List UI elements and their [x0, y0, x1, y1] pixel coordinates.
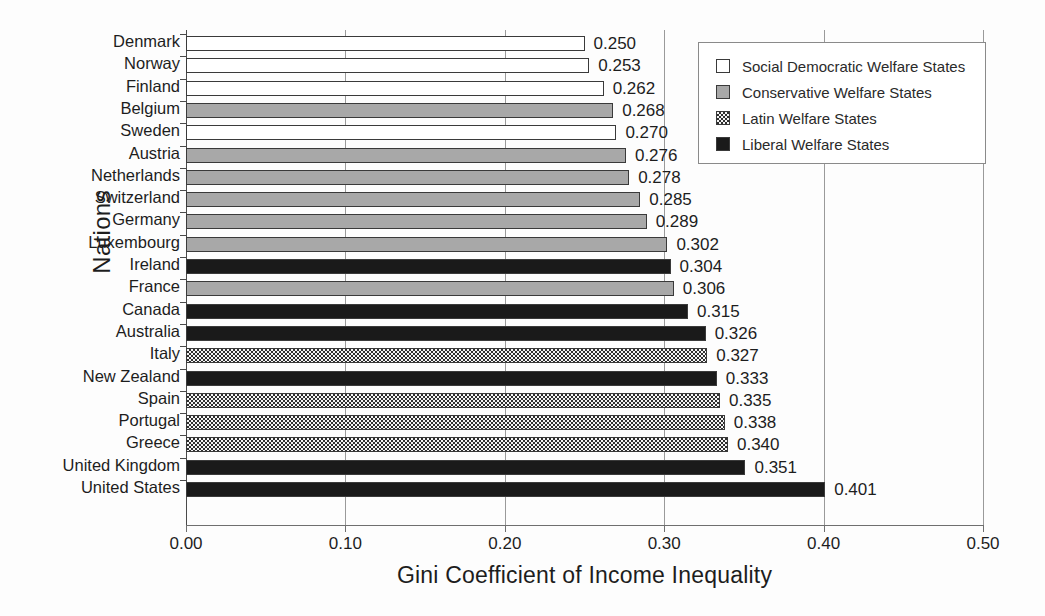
x-axis-tick-mark [983, 525, 984, 532]
bar-value-label: 0.401 [834, 480, 877, 499]
x-axis-line [186, 525, 983, 526]
bar-value-label: 0.268 [622, 101, 665, 120]
legend-label: Liberal Welfare States [742, 136, 889, 153]
y-axis-tick-mark [180, 346, 186, 347]
bar[interactable] [186, 125, 616, 140]
bar-value-label: 0.250 [594, 34, 637, 53]
x-axis-title: Gini Coefficient of Income Inequality [186, 562, 983, 589]
bar-value-label: 0.351 [754, 458, 797, 477]
x-axis-tick-label: 0.30 [619, 534, 709, 554]
y-axis-tick-mark [180, 302, 186, 303]
legend: Social Democratic Welfare StatesConserva… [698, 42, 986, 164]
bar-row: Netherlands0.278 [186, 168, 983, 190]
bar[interactable] [186, 437, 728, 452]
legend-item-sd[interactable]: Social Democratic Welfare States [716, 55, 965, 77]
bar-row: Ireland0.304 [186, 257, 983, 279]
category-label: Australia [0, 323, 180, 340]
y-axis-tick-mark [180, 391, 186, 392]
x-axis-tick-label: 0.50 [938, 534, 1028, 554]
x-axis-tick-mark [824, 525, 825, 532]
bar-value-label: 0.327 [716, 346, 759, 365]
x-axis-tick-mark [664, 525, 665, 532]
x-axis-tick-label: 0.20 [460, 534, 550, 554]
x-axis-tick-label: 0.40 [779, 534, 869, 554]
bar[interactable] [186, 103, 613, 118]
category-label: Austria [0, 145, 180, 162]
category-label: United States [0, 479, 180, 496]
bar[interactable] [186, 393, 720, 408]
bar-value-label: 0.338 [734, 413, 777, 432]
bar-row: Canada0.315 [186, 302, 983, 324]
bar[interactable] [186, 348, 707, 363]
y-axis-tick-mark [180, 146, 186, 147]
bar[interactable] [186, 214, 647, 229]
bar-value-label: 0.270 [625, 123, 668, 142]
bar-value-label: 0.304 [680, 257, 723, 276]
legend-label: Latin Welfare States [742, 110, 877, 127]
x-axis-tick-mark [345, 525, 346, 532]
category-label: Luxembourg [0, 234, 180, 251]
y-axis-tick-mark [180, 324, 186, 325]
bar-value-label: 0.333 [726, 369, 769, 388]
y-axis-tick-mark [180, 79, 186, 80]
bar-value-label: 0.289 [656, 212, 699, 231]
category-label: New Zealand [0, 368, 180, 385]
bar[interactable] [186, 58, 589, 73]
legend-item-cons[interactable]: Conservative Welfare States [716, 81, 932, 103]
category-label: Sweden [0, 122, 180, 139]
bar-row: Germany0.289 [186, 212, 983, 234]
bar-row: France0.306 [186, 279, 983, 301]
category-label: Canada [0, 301, 180, 318]
y-axis-tick-mark [180, 257, 186, 258]
legend-item-latin[interactable]: Latin Welfare States [716, 107, 877, 129]
y-axis-tick-mark [180, 101, 186, 102]
category-label: Ireland [0, 256, 180, 273]
category-label: Denmark [0, 33, 180, 50]
y-axis-tick-mark [180, 235, 186, 236]
black-square-icon [716, 137, 730, 151]
bar-row: United States0.401 [186, 480, 983, 502]
bar[interactable] [186, 192, 640, 207]
bar[interactable] [186, 304, 688, 319]
category-label: Switzerland [0, 189, 180, 206]
bar-value-label: 0.253 [598, 56, 641, 75]
bar-row: New Zealand0.333 [186, 369, 983, 391]
bar[interactable] [186, 482, 825, 497]
bar[interactable] [186, 259, 671, 274]
category-label: Greece [0, 434, 180, 451]
bar[interactable] [186, 371, 717, 386]
bar[interactable] [186, 281, 674, 296]
bar[interactable] [186, 415, 725, 430]
bar[interactable] [186, 170, 629, 185]
bar-value-label: 0.306 [683, 279, 726, 298]
category-label: Italy [0, 345, 180, 362]
y-axis-tick-mark [180, 56, 186, 57]
bar-row: Greece0.340 [186, 435, 983, 457]
bar[interactable] [186, 36, 585, 51]
x-axis-tick-label: 0.00 [141, 534, 231, 554]
category-label: Belgium [0, 100, 180, 117]
bar-value-label: 0.340 [737, 435, 780, 454]
bar-row: Italy0.327 [186, 346, 983, 368]
legend-item-lib[interactable]: Liberal Welfare States [716, 133, 889, 155]
bar[interactable] [186, 81, 604, 96]
y-axis-tick-mark [180, 123, 186, 124]
category-label: Spain [0, 390, 180, 407]
category-label: Finland [0, 78, 180, 95]
y-axis-tick-mark [180, 480, 186, 481]
bar-value-label: 0.285 [649, 190, 692, 209]
bar-value-label: 0.315 [697, 302, 740, 321]
legend-label: Social Democratic Welfare States [742, 58, 965, 75]
x-axis-tick-mark [186, 525, 187, 532]
white-square-icon [716, 59, 730, 73]
checkered-square-icon [716, 111, 730, 125]
bar[interactable] [186, 460, 745, 475]
bar[interactable] [186, 237, 667, 252]
y-axis-tick-mark [180, 369, 186, 370]
bar[interactable] [186, 326, 706, 341]
bar-row: United Kingdom0.351 [186, 458, 983, 480]
bar[interactable] [186, 148, 626, 163]
bar-value-label: 0.326 [715, 324, 758, 343]
x-axis-tick-label: 0.10 [300, 534, 390, 554]
bar-row: Switzerland0.285 [186, 190, 983, 212]
